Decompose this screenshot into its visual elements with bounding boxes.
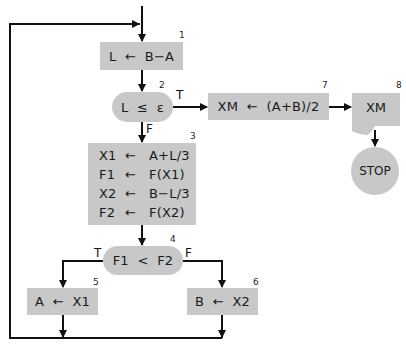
assignment-row: F1 ← F(X1) <box>99 165 185 184</box>
branch-label-false-2: F <box>146 122 153 136</box>
stop-terminal: STOP <box>351 147 399 195</box>
assignment-row: F2 ← F(X2) <box>99 203 185 222</box>
node-7-text: XM ← (A+B)/2 <box>218 99 320 114</box>
branch-label-false-4: F <box>185 246 192 260</box>
node-number-3: 3 <box>190 131 196 141</box>
node-1-text: L ← B−A <box>109 49 174 64</box>
node-2-text: L ≤ ε <box>121 100 164 115</box>
node-5-text: A ← X1 <box>35 294 90 309</box>
node-number-1: 1 <box>179 30 185 40</box>
process-node-1: L ← B−A <box>100 42 183 70</box>
node-8-text: XM <box>366 100 386 115</box>
process-node-6: B ← X2 <box>187 288 258 315</box>
branch-label-true-2: T <box>176 88 183 102</box>
assignment-row: X1 ← A+L/3 <box>99 146 190 165</box>
node-number-8: 8 <box>396 80 402 90</box>
assignment-row: X2 ← B−L/3 <box>99 184 190 203</box>
output-node-8: XM <box>352 93 400 121</box>
node-number-6: 6 <box>253 277 259 287</box>
process-node-3: X1 ← A+L/3 F1 ← F(X1) X2 ← B−L/3 F2 ← F(… <box>88 143 196 225</box>
decision-node-4: F1 < F2 <box>103 246 183 275</box>
node-number-5: 5 <box>93 277 99 287</box>
node-4-text: F1 < F2 <box>113 253 174 268</box>
process-node-5: A ← X1 <box>27 288 98 315</box>
node-number-7: 7 <box>322 80 328 90</box>
stop-text: STOP <box>359 164 391 178</box>
node-6-text: B ← X2 <box>195 294 250 309</box>
branch-label-true-4: T <box>94 246 101 260</box>
node-number-2: 2 <box>159 80 165 90</box>
decision-node-2: L ≤ ε <box>112 92 173 122</box>
node-number-4: 4 <box>170 234 176 244</box>
process-node-7: XM ← (A+B)/2 <box>208 93 329 120</box>
